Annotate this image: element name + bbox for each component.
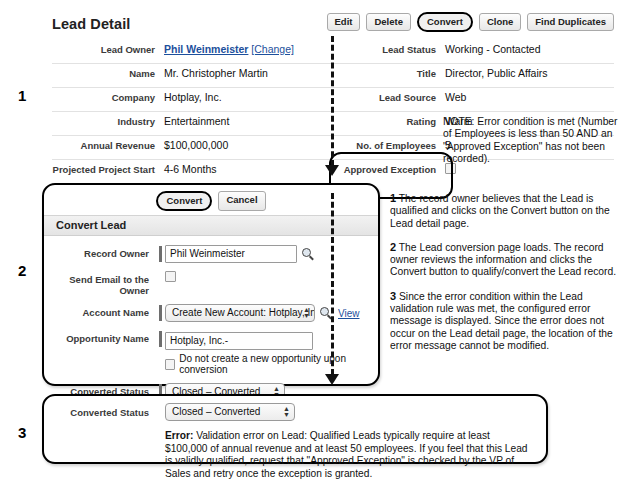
form-row-send-email: Send Email to the Owner xyxy=(44,267,378,300)
opportunity-name-label: Opportunity Name xyxy=(44,330,159,344)
required-marker xyxy=(159,246,162,262)
form-row-account-name: Account Name Create New Account: Hotplay… xyxy=(44,300,378,326)
convert-lead-section-title: Convert Lead xyxy=(56,219,126,231)
field-label: Name xyxy=(52,66,164,80)
required-marker xyxy=(159,331,162,347)
record-owner-input[interactable]: Phil Weinmeister xyxy=(165,245,297,263)
send-email-label: Send Email to the Owner xyxy=(44,271,159,296)
send-email-checkbox[interactable] xyxy=(165,271,176,282)
field-value: $100,000,000 xyxy=(164,138,333,152)
lead-detail-left-column: Lead Owner Phil Weinmeister [Change] Nam… xyxy=(52,40,333,183)
form-row-opportunity-name: Opportunity Name Hotplay, Inc.- Do not c… xyxy=(44,326,378,379)
field-title: Title Director, Public Affairs xyxy=(333,63,614,87)
convert-lead-panel: Convert Cancel Convert Lead Record Owner… xyxy=(42,183,380,386)
no-opportunity-label: Do not create a new opportunity upon con… xyxy=(179,353,378,375)
field-name: Name Mr. Christopher Martin xyxy=(52,63,333,87)
validation-error-message: Error: Validation error on Lead: Qualifi… xyxy=(165,430,546,480)
field-label: Lead Owner xyxy=(52,42,164,56)
error-converted-status-value: Closed – Converted xyxy=(172,406,260,417)
field-value: Hotplay, Inc. xyxy=(164,90,333,104)
convert-lead-section-header: Convert Lead xyxy=(44,215,378,236)
no-opportunity-checkbox[interactable] xyxy=(165,359,175,370)
account-name-label: Account Name xyxy=(44,304,159,318)
field-value: Working - Contacted xyxy=(445,42,614,56)
delete-button[interactable]: Delete xyxy=(366,13,411,31)
search-icon[interactable] xyxy=(302,248,315,261)
field-annual-revenue: Annual Revenue $100,000,000 xyxy=(52,135,333,159)
account-view-link[interactable]: View xyxy=(338,308,360,319)
step-number-2: 2 xyxy=(18,262,26,279)
convert-button[interactable]: Convert xyxy=(417,12,473,32)
error-condition-note: NOTE: Error condition is met (Number of … xyxy=(443,116,621,166)
field-label: Projected Project Start xyxy=(52,162,164,176)
connector-arrow-2 xyxy=(325,374,339,385)
find-duplicates-button[interactable]: Find Duplicates xyxy=(527,13,614,31)
lead-owner-link[interactable]: Phil Weinmeister xyxy=(164,43,248,55)
chevron-updown-icon: ▲▼ xyxy=(303,307,310,319)
field-value: 4-6 Months xyxy=(164,162,333,176)
field-label: Industry xyxy=(52,114,164,128)
validation-error-panel: Converted Status Closed – Converted ▲▼ E… xyxy=(42,394,548,464)
page-title: Lead Detail xyxy=(52,16,130,32)
error-text: Validation error on Lead: Qualified Lead… xyxy=(165,430,527,479)
connector-arrow-1 xyxy=(325,165,339,176)
field-value: Web xyxy=(445,90,614,104)
explanation-item-3: 3 Since the error condition within the L… xyxy=(390,290,622,352)
explanation-text: The record owner believes that the Lead … xyxy=(390,193,610,229)
connector-line-1 xyxy=(331,36,334,166)
explanation-item-2: 2 The Lead conversion page loads. The re… xyxy=(390,241,622,279)
explanation-item-1: 1 The record owner believes that the Lea… xyxy=(390,192,622,230)
diagram-canvas: 1 2 3 Lead Detail Edit Delete Convert Cl… xyxy=(0,0,626,482)
lead-detail-button-bar: Edit Delete Convert Clone Find Duplicate… xyxy=(327,12,615,32)
field-value: Mr. Christopher Martin xyxy=(164,66,333,80)
field-label: Title xyxy=(333,66,445,80)
spacer xyxy=(159,272,162,288)
field-lead-owner: Lead Owner Phil Weinmeister [Change] xyxy=(52,40,333,63)
connector-line-2 xyxy=(331,193,334,375)
field-label: Rating xyxy=(333,114,445,128)
panel-convert-button[interactable]: Convert xyxy=(156,191,212,211)
step-number-3: 3 xyxy=(18,424,26,441)
field-lead-source: Lead Source Web xyxy=(333,87,614,111)
field-value: Phil Weinmeister [Change] xyxy=(164,42,333,56)
explanation-text: Since the error condition within the Lea… xyxy=(390,291,613,351)
change-owner-link[interactable]: [Change] xyxy=(251,43,294,55)
form-row-record-owner: Record Owner Phil Weinmeister xyxy=(44,241,378,267)
clone-button[interactable]: Clone xyxy=(479,13,521,31)
record-owner-label: Record Owner xyxy=(44,245,159,259)
account-name-selected-value: Create New Account: Hotplay, Inc. xyxy=(172,307,315,318)
explanation-text: The Lead conversion page loads. The reco… xyxy=(390,242,616,278)
field-label: Approved Exception xyxy=(333,162,445,176)
field-label: Annual Revenue xyxy=(52,138,164,152)
no-opportunity-row: Do not create a new opportunity upon con… xyxy=(165,353,378,375)
field-projected-project-start: Projected Project Start 4-6 Months xyxy=(52,159,333,183)
field-value: Director, Public Affairs xyxy=(445,66,614,80)
field-value: Entertainment xyxy=(164,114,333,128)
field-label: Company xyxy=(52,90,164,104)
step-number-1: 1 xyxy=(18,87,26,104)
account-name-select[interactable]: Create New Account: Hotplay, Inc. ▲▼ xyxy=(165,304,315,322)
field-label: Lead Source xyxy=(333,90,445,104)
field-industry: Industry Entertainment xyxy=(52,111,333,135)
error-prefix: Error: xyxy=(165,430,193,441)
field-lead-status: Lead Status Working - Contacted xyxy=(333,40,614,63)
required-marker xyxy=(159,305,162,321)
field-company: Company Hotplay, Inc. xyxy=(52,87,333,111)
error-converted-status-label: Converted Status xyxy=(44,403,159,462)
panel-cancel-button[interactable]: Cancel xyxy=(218,191,265,211)
error-converted-status-select[interactable]: Closed – Converted ▲▼ xyxy=(165,403,295,421)
explanation-list: 1 The record owner believes that the Lea… xyxy=(390,192,622,363)
opportunity-name-input[interactable]: Hotplay, Inc.- xyxy=(165,332,313,350)
chevron-updown-icon: ▲▼ xyxy=(283,406,290,418)
convert-lead-button-bar: Convert Cancel xyxy=(44,191,378,211)
field-label: Lead Status xyxy=(333,42,445,56)
edit-button[interactable]: Edit xyxy=(327,13,361,31)
field-label: No. of Employees xyxy=(333,138,445,152)
